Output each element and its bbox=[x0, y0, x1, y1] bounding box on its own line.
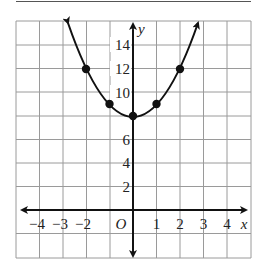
x-tick-1: 1 bbox=[153, 216, 161, 232]
y-tick-14: 14 bbox=[115, 37, 131, 53]
x-tick-4: 4 bbox=[223, 216, 231, 232]
x-tick-3: 3 bbox=[200, 216, 208, 232]
parabola-chart: 14 12 10 6 4 2 −4 −3 −2 O 1 2 3 4 x y bbox=[0, 0, 265, 261]
y-tick-4: 4 bbox=[123, 155, 131, 171]
y-tick-12: 12 bbox=[115, 61, 130, 77]
point-neg1-9 bbox=[105, 100, 113, 108]
x-tick-labels: −4 −3 −2 O 1 2 3 4 x bbox=[29, 216, 248, 232]
y-tick-6: 6 bbox=[123, 132, 131, 148]
y-tick-10: 10 bbox=[115, 85, 130, 101]
x-tick-2: 2 bbox=[176, 216, 184, 232]
point-0-8 bbox=[129, 112, 137, 120]
point-neg2-12 bbox=[82, 65, 90, 73]
origin-label: O bbox=[116, 216, 127, 232]
point-1-9 bbox=[152, 100, 160, 108]
y-axis-label: y bbox=[136, 21, 145, 37]
point-2-12 bbox=[176, 65, 184, 73]
x-axis-label: x bbox=[240, 216, 248, 232]
x-tick-neg4: −4 bbox=[29, 216, 45, 232]
x-tick-neg2: −2 bbox=[75, 216, 91, 232]
x-tick-neg3: −3 bbox=[52, 216, 68, 232]
y-tick-2: 2 bbox=[123, 179, 131, 195]
